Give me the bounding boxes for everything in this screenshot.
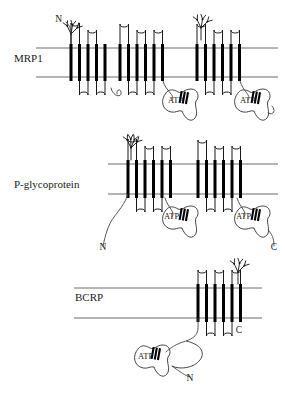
n-glycan-symbol-2-0 [230, 258, 249, 284]
transmembrane-helix-4 [222, 284, 225, 322]
helix-connecting-loop-0-2-2 [214, 30, 223, 44]
helix-connecting-loop-1-0-0 [128, 139, 137, 160]
transmembrane-helix-16 [230, 44, 233, 81]
transmembrane-helix-5 [104, 44, 107, 81]
helix-connecting-loop-1-0-1 [137, 198, 146, 212]
transmembrane-helix-8 [205, 160, 208, 198]
helix-connecting-loop-2-0-4 [232, 270, 241, 284]
transmembrane-helix-10 [222, 160, 225, 198]
transmembrane-helix-8 [136, 44, 139, 81]
helix-connecting-loop-1-1-4 [232, 146, 241, 160]
glycan-node [243, 265, 245, 267]
transmembrane-helix-3 [144, 160, 147, 198]
glycan-node [136, 141, 138, 143]
glycan-node [133, 139, 135, 141]
helix-connecting-loop-0-0-3 [97, 81, 106, 95]
helix-connecting-loop-1-1-2 [215, 146, 224, 160]
transmembrane-helix-9 [144, 44, 147, 81]
helix-connecting-loop-0-1-4 [154, 30, 163, 44]
transmembrane-helix-5 [231, 284, 234, 322]
transmembrane-helix-2 [78, 44, 81, 81]
glycan-node [196, 19, 198, 21]
helix-connecting-loop-0-1-1 [129, 81, 138, 95]
glycan-node [130, 138, 132, 140]
helix-connecting-loop-0-1-0 [120, 24, 129, 44]
terminus-label-n: N [187, 373, 194, 383]
helix-connecting-loop-0-1-3 [146, 81, 155, 95]
transmembrane-helix-14 [213, 44, 216, 81]
transmembrane-helix-4 [152, 160, 155, 198]
transmembrane-helix-9 [214, 160, 217, 198]
helix-connecting-loop-0-2-4 [231, 30, 240, 44]
transmembrane-helix-4 [95, 44, 98, 81]
n-terminus-tail [103, 194, 128, 246]
helix-connecting-loop-1-1-1 [207, 198, 216, 212]
helix-connecting-loop-2-0-1 [207, 322, 216, 336]
transmembrane-helix-1 [197, 284, 200, 322]
terminus-label-n: N [55, 14, 62, 24]
panel-mrp1: ATPATP [36, 14, 278, 120]
transmembrane-helix-15 [221, 44, 224, 81]
helix-connecting-loop-2-0-0 [198, 270, 207, 284]
helix-connecting-loop-1-1-3 [224, 198, 233, 212]
helix-connecting-loop-0-2-1 [206, 81, 215, 95]
glycan-node [239, 262, 241, 264]
glycan-node [202, 18, 204, 20]
glycan-node [206, 21, 208, 23]
atp-binding-label: ATP [236, 211, 251, 221]
terminus-label-c: C [236, 325, 242, 335]
transmembrane-helix-1 [70, 44, 73, 81]
panel-label-pgp: P-glycoprotein [14, 178, 80, 190]
transmembrane-helix-3 [87, 44, 90, 81]
panel-label-mrp1: MRP1 [14, 52, 43, 64]
panel-bcrp: ATP [74, 258, 262, 377]
n-glycan-symbol-1-0 [123, 135, 142, 160]
transmembrane-helix-13 [204, 44, 207, 81]
glycan-node [76, 27, 78, 29]
helix-connecting-loop-1-0-2 [145, 146, 154, 160]
helix-connecting-loop-0-2-3 [223, 81, 232, 95]
transmembrane-helix-10 [153, 44, 156, 81]
helix-connecting-loop-2-0-2 [215, 270, 224, 284]
glycan-node [126, 139, 128, 141]
helix-connecting-loop-0-0-2 [88, 30, 97, 44]
transmembrane-helix-17 [238, 44, 241, 81]
helix-connecting-loop-2-0-3 [224, 322, 233, 336]
transmembrane-helix-6 [239, 284, 242, 322]
transmembrane-helix-7 [197, 160, 200, 198]
transmembrane-helix-3 [214, 284, 217, 322]
glycan-branch [234, 264, 238, 272]
panel-label-bcrp: BCRP [75, 291, 103, 303]
transmembrane-helix-7 [127, 44, 130, 81]
glycan-node [233, 263, 235, 265]
transmembrane-helix-6 [119, 44, 122, 81]
transmembrane-helix-11 [161, 44, 164, 81]
helix-connecting-loop-0-1-2 [137, 30, 146, 44]
transmembrane-helix-12 [239, 160, 242, 198]
terminus-label-c: C [271, 242, 277, 252]
helix-connecting-loop-0-0-1 [80, 81, 89, 95]
glycan-node [72, 24, 74, 26]
transporter-topology-figure: ATPATPATPATPATP MRP1NP-glycoproteinNCBCR… [0, 0, 285, 399]
glycan-node [66, 25, 68, 27]
atp-binding-label: ATP [168, 95, 183, 105]
transmembrane-helix-6 [169, 160, 172, 198]
atp-binding-label: ATP [164, 211, 179, 221]
cytoplasmic-linker-loop [111, 88, 121, 96]
panel-pgp: ATPATP [103, 135, 278, 246]
transmembrane-helix-12 [196, 44, 199, 81]
atp-binding-label: ATP [138, 351, 153, 361]
helix-connecting-loop-1-0-4 [162, 146, 171, 160]
figure-canvas: ATPATPATPATPATP MRP1NP-glycoproteinNCBCR… [0, 0, 285, 399]
helix-connecting-loop-1-0-3 [154, 198, 163, 212]
transmembrane-helix-5 [161, 160, 164, 198]
terminus-label-n: N [100, 242, 107, 252]
helix-connecting-loop-1-1-0 [198, 140, 207, 160]
transmembrane-helix-1 [127, 160, 130, 198]
transmembrane-helix-2 [205, 284, 208, 322]
transmembrane-helix-2 [135, 160, 138, 198]
transmembrane-helix-11 [231, 160, 234, 198]
